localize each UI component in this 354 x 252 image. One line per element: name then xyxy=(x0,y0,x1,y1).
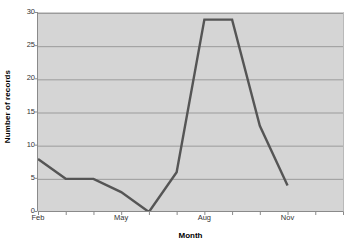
line-chart: Number of records 051015202530 FebMayAug… xyxy=(0,0,354,252)
y-tick-label: 10 xyxy=(16,141,35,149)
x-tick-label: Nov xyxy=(281,214,294,222)
x-tick-label: Feb xyxy=(32,214,45,222)
y-axis-title: Number of records xyxy=(0,0,16,212)
series-line xyxy=(38,20,288,212)
gridlines xyxy=(38,14,343,213)
x-tick-label: Aug xyxy=(198,214,211,222)
x-axis-title: Month xyxy=(38,231,343,240)
x-tick-label: May xyxy=(114,214,128,222)
x-axis-tick-labels: FebMayAugNov xyxy=(0,214,354,228)
data-series xyxy=(38,20,288,212)
y-tick-label: 20 xyxy=(16,75,35,83)
y-tick-label: 25 xyxy=(16,41,35,49)
y-tick-label: 30 xyxy=(16,8,35,16)
y-axis-title-text: Number of records xyxy=(4,69,13,142)
plot-svg xyxy=(38,13,343,212)
y-tick-label: 5 xyxy=(16,174,35,182)
y-tick-label: 15 xyxy=(16,108,35,116)
plot-area xyxy=(38,12,344,212)
